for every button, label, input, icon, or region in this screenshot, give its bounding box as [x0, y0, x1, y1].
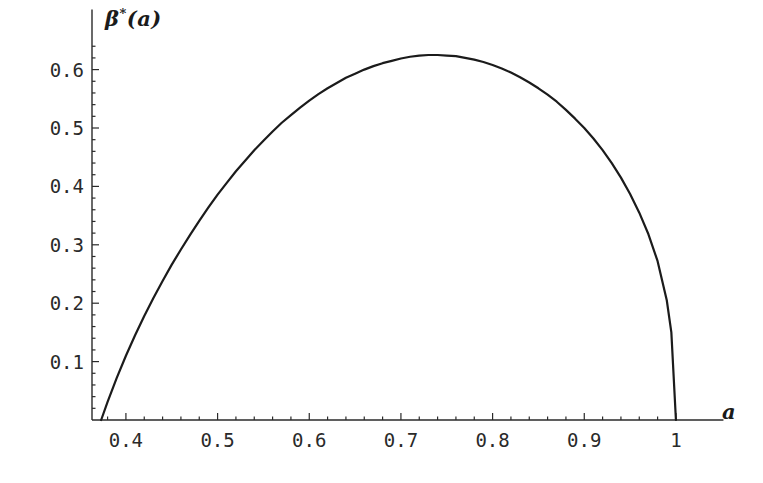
y-axis-tick-label: 0.3 — [26, 234, 84, 256]
y-axis-tick-label: 0.5 — [26, 117, 84, 139]
x-axis-tick-label: 0.7 — [371, 429, 431, 451]
x-axis-title: a — [722, 399, 736, 424]
x-axis-tick-label: 0.6 — [279, 429, 339, 451]
x-axis-tick-label: 0.9 — [554, 429, 614, 451]
x-axis-tick-label: 0.4 — [96, 429, 156, 451]
y-axis-tick-label: 0.1 — [26, 351, 84, 373]
y-axis-tick-label: 0.4 — [26, 175, 84, 197]
y-axis-title: β*(a) — [105, 6, 162, 31]
x-axis-tick-label: 0.8 — [463, 429, 523, 451]
curve-group — [101, 55, 676, 420]
y-axis-tick-label: 0.6 — [26, 59, 84, 81]
y-axis-title-superscript: * — [119, 6, 126, 21]
y-axis-title-symbol: β — [105, 6, 119, 31]
chart-svg — [0, 0, 763, 483]
y-axis-title-argument: (a) — [127, 6, 162, 31]
y-axis-tick-label: 0.2 — [26, 292, 84, 314]
data-series-line-0 — [101, 55, 676, 420]
x-axis-tick-label: 0.5 — [188, 429, 248, 451]
x-axis-tick-label: 1 — [646, 429, 706, 451]
axes-group — [92, 9, 723, 420]
chart-plot-area: β*(a) a 0.60.50.40.30.20.1 0.40.50.60.70… — [0, 0, 763, 483]
